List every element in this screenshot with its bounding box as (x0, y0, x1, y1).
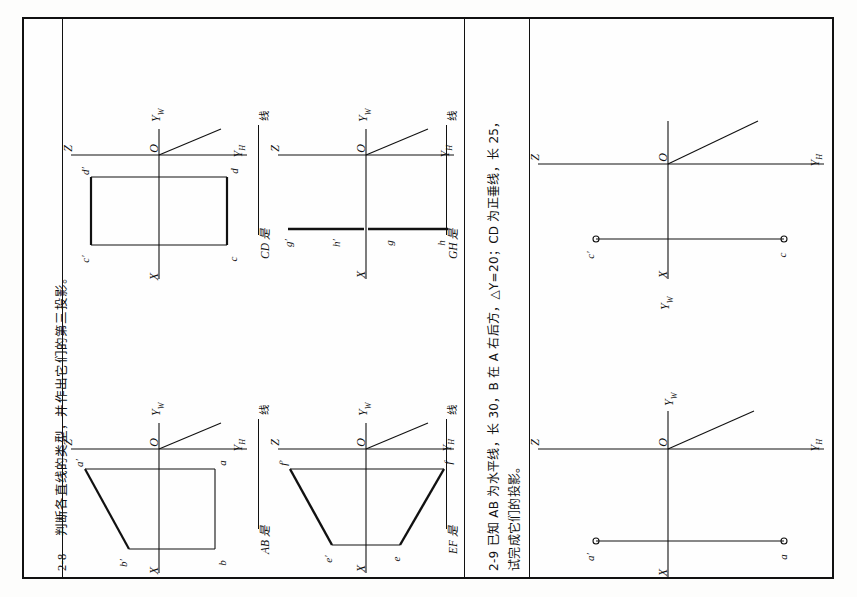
answer-GH-suffix: 线 (444, 111, 459, 121)
point-label-e: e (390, 557, 402, 562)
answer-AB-label: AB 是 (259, 526, 271, 554)
axis-label-o: O (354, 438, 369, 447)
answer-GH-blank[interactable] (446, 125, 447, 235)
answer-EF-suffix: 线 (444, 405, 459, 415)
point-label-a: a (216, 460, 228, 466)
point-label-ap: a′ (584, 553, 596, 561)
rule-mid-band (464, 19, 465, 577)
axis-label-yh: YH (808, 439, 824, 451)
question-2-9-line2: 试完成它们的投影。 (505, 460, 522, 571)
question-2-8-number: 2-8 (55, 553, 69, 571)
answer-CD-blank[interactable] (258, 125, 259, 235)
axis-label-yw-ef: YW (356, 403, 372, 416)
axis-label-z: Z (61, 439, 76, 446)
axis-label-x: X (354, 565, 369, 572)
answer-AB-blank[interactable] (258, 419, 259, 529)
axis-label-yh: YH (231, 145, 247, 157)
axis-label-z: Z (61, 145, 76, 152)
axis-label-x: X (147, 273, 162, 280)
point-label-ep: e′ (322, 555, 334, 562)
answer-GH-label: GH 是 (447, 229, 459, 260)
answer-CD-suffix: 线 (256, 111, 271, 121)
diagram-AB: Z YH O X a′ b′ a b (69, 421, 249, 581)
axis-label-x: X (147, 567, 162, 574)
axis-label-yw-gh: YW (356, 109, 372, 122)
answer-CD-label: CD 是 (259, 229, 271, 259)
axis-label-o: O (354, 144, 369, 153)
axis-label-yw-cd: YW (149, 109, 165, 122)
point-label-c: c (776, 253, 788, 258)
axis-bisector (668, 121, 758, 164)
point-label-hp: h′ (330, 239, 342, 247)
point-label-f: f (442, 461, 454, 464)
axis-bisector (159, 423, 221, 449)
axis-label-o: O (656, 153, 671, 162)
point-label-dp: d′ (79, 167, 91, 175)
answer-EF-label: EF 是 (447, 526, 459, 554)
point-label-ap: a′ (73, 459, 85, 467)
axis-label-z: Z (268, 439, 283, 446)
diagram-EF: Z YH O X f′ e′ f e (276, 421, 456, 581)
point-label-d: d (228, 168, 240, 174)
answer-AB-suffix: 线 (256, 405, 271, 415)
axis-label-o: O (656, 438, 671, 447)
axis-label-x: X (656, 569, 671, 576)
axis-label-o: O (147, 144, 162, 153)
axis-label-yw-ab: YW (149, 403, 165, 416)
answer-EF-prompt: EF 是 (444, 526, 460, 554)
axis-label-z: Z (268, 145, 283, 152)
axis-bisector (159, 129, 221, 155)
edge-fp-ep-bold (290, 469, 332, 545)
axis-label-yw-a-given: YW (662, 393, 678, 406)
point-label-c: c (227, 257, 239, 262)
axis-label-x: X (656, 271, 671, 278)
axis-label-z: Z (528, 154, 543, 161)
axis-label-o: O (147, 438, 162, 447)
point-label-bp: b′ (117, 559, 129, 567)
axis-label-yh: YH (808, 154, 824, 166)
point-label-gp: g′ (282, 239, 294, 247)
diagram-C-given: Z YH O X YW c′ c (536, 119, 826, 304)
point-label-g: g (383, 240, 395, 246)
point-label-b: b (216, 560, 228, 566)
axis-label-x: X (354, 271, 369, 278)
question-2-8-title: 2-8 判断各直线的类型，并作出它们的第三投影。 (51, 270, 70, 571)
answer-EF-blank[interactable] (446, 419, 447, 529)
diagram-A-given: Z YH O X a′ a (536, 409, 826, 584)
point-label-fp: f′ (277, 460, 289, 465)
edge-ap-bp-bold (85, 469, 129, 549)
question-2-9-line1: 2-9 已知 AB 为水平线，长 30，B 在 A 右后方，△Y=20；CD 为… (484, 115, 501, 571)
question-2-8-text: 判断各直线的类型，并作出它们的第三投影。 (54, 270, 69, 536)
page-frame: 2-8 判断各直线的类型，并作出它们的第三投影。 2-9 已知 AB 为水平线，… (22, 17, 834, 579)
workbook-page: 2-8 判断各直线的类型，并作出它们的第三投影。 2-9 已知 AB 为水平线，… (0, 0, 857, 597)
edge-f-e-bold (400, 469, 444, 545)
axis-label-yh: YH (231, 439, 247, 451)
axis-label-yw: YW (658, 297, 674, 310)
point-label-a: a (777, 554, 789, 560)
rule-q29-band (529, 19, 530, 577)
axis-bisector (366, 129, 428, 155)
axis-bisector (366, 423, 428, 449)
diagram-GH: Z YH O X g′ h′ g h (276, 127, 456, 287)
point-label-cp: c′ (584, 251, 596, 258)
point-label-cp: c′ (79, 255, 91, 262)
axis-bisector (668, 411, 754, 449)
answer-AB-prompt: AB 是 (256, 526, 272, 554)
axis-label-yh: YH (440, 439, 456, 451)
axis-label-z: Z (528, 439, 543, 446)
diagram-CD: Z YH O X d′ c′ d c (69, 127, 249, 287)
